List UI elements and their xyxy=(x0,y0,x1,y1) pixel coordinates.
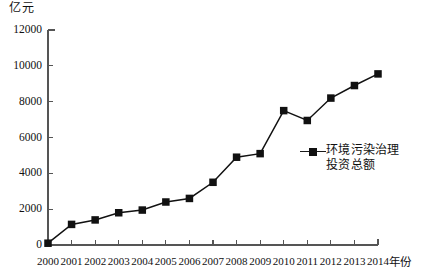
chart-canvas xyxy=(0,0,431,278)
y-axis-tick-label-text: 4000 xyxy=(4,167,42,179)
x-axis-tick-label: 2011 xyxy=(296,256,318,267)
x-axis-tick-label: 2005 xyxy=(155,256,177,267)
data-point-marker xyxy=(162,198,170,206)
data-point-marker xyxy=(233,153,241,161)
legend-item: 环境污染治理投资总额 xyxy=(300,143,428,173)
data-point-marker xyxy=(91,216,99,224)
data-point-marker xyxy=(68,221,76,229)
data-point-marker xyxy=(209,179,217,187)
y-axis-tick-label-text: 0 xyxy=(4,239,42,251)
x-axis-tick-label: 2014 xyxy=(367,256,389,267)
data-point-marker xyxy=(139,206,147,214)
data-point-marker xyxy=(374,70,382,78)
y-axis-tick-label-text: 12000 xyxy=(4,24,42,36)
data-point-marker xyxy=(115,209,123,217)
data-point-marker xyxy=(304,117,312,125)
x-axis-tick-label: 2012 xyxy=(320,256,342,267)
axes-group xyxy=(48,30,378,245)
x-axis-tick-label: 2002 xyxy=(84,256,106,267)
data-point-marker xyxy=(327,94,335,102)
y-axis-tick-label-text: 10000 xyxy=(4,60,42,72)
x-axis-title: 年份 xyxy=(389,256,411,268)
y-axis-tick-label-text: 2000 xyxy=(4,203,42,215)
x-axis-tick-label: 2009 xyxy=(249,256,271,267)
x-axis-tick-label: 2010 xyxy=(273,256,295,267)
x-axis-tick-label: 2000 xyxy=(37,256,59,267)
legend-item-label: 环境污染治理投资总额 xyxy=(326,143,412,173)
data-point-marker xyxy=(351,82,359,90)
x-axis-tick-label: 2004 xyxy=(131,256,153,267)
x-axis-tick-label: 2013 xyxy=(343,256,365,267)
y-axis-tick-label-text: 8000 xyxy=(4,96,42,108)
x-axis-tick-label: 2006 xyxy=(178,256,200,267)
x-axis-tick-label: 2003 xyxy=(108,256,130,267)
x-axis-tick-label: 2007 xyxy=(202,256,224,267)
data-point-marker xyxy=(256,150,264,158)
legend-marker-icon xyxy=(300,145,326,158)
y-axis-tick-label-text: 6000 xyxy=(4,132,42,144)
line-chart: 亿元 020004000600080001000012000 200020012… xyxy=(0,0,431,278)
x-axis-tick-label: 2001 xyxy=(61,256,83,267)
data-point-marker xyxy=(44,239,52,247)
data-point-marker xyxy=(186,195,194,203)
chart-legend: 环境污染治理投资总额 xyxy=(300,143,428,173)
x-axis-tick-label: 2008 xyxy=(226,256,248,267)
data-point-marker xyxy=(280,107,288,115)
